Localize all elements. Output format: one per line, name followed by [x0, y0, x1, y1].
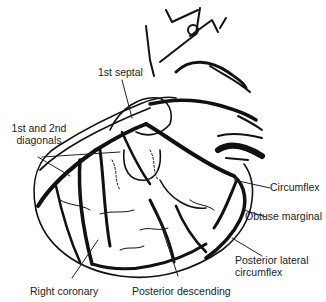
label-posterior-lateral-line1: Posterior lateral: [235, 254, 309, 266]
label-obtuse-marginal: Obtuse marginal: [245, 210, 322, 222]
label-diagonals-line2: diagonals: [4, 134, 74, 146]
label-right-coronary: Right coronary: [30, 285, 98, 297]
label-posterior-lateral-circumflex: Posterior lateral circumflex: [235, 254, 309, 278]
label-circumflex: Circumflex: [270, 181, 320, 193]
label-diagonals-line1: 1st and 2nd: [4, 122, 74, 134]
label-posterior-lateral-line2: circumflex: [235, 266, 309, 278]
label-first-septal: 1st septal: [98, 66, 143, 78]
label-diagonals: 1st and 2nd diagonals: [4, 122, 74, 146]
label-posterior-descending: Posterior descending: [132, 285, 231, 297]
